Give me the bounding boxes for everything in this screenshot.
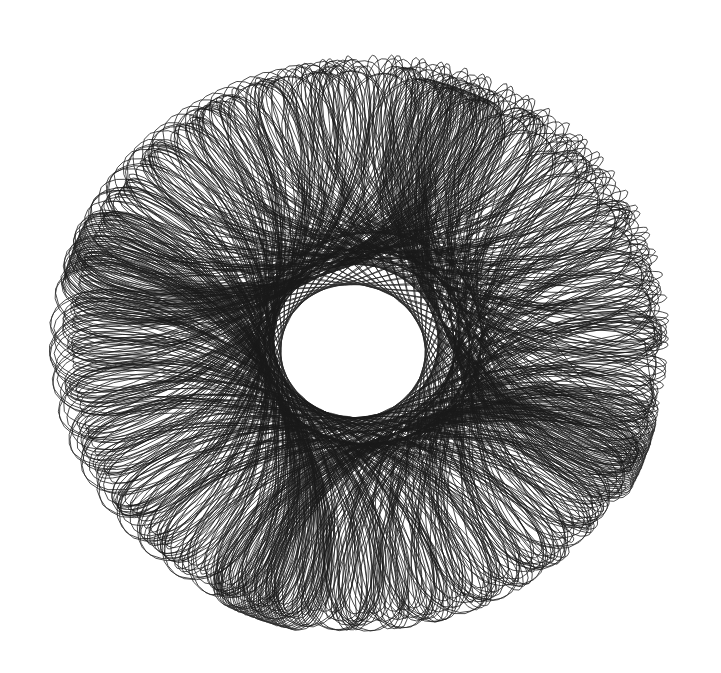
spirograph-figure: Epitrochoid / Spirograph Rosette Dense a… [0, 0, 721, 673]
drawing-canvas: Epitrochoid / Spirograph Rosette Dense a… [0, 0, 721, 673]
